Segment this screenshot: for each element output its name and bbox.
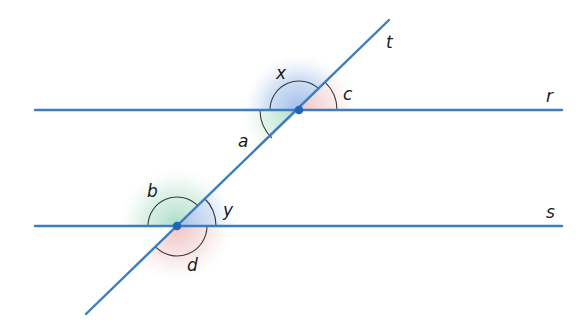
line-label-t: t bbox=[386, 32, 394, 52]
angle-label-d: d bbox=[187, 255, 198, 275]
angle-label-a: a bbox=[238, 131, 248, 151]
angle-label-y: y bbox=[222, 200, 234, 220]
intersection-point-r-t bbox=[295, 106, 304, 115]
angle-label-b: b bbox=[147, 181, 158, 201]
line-label-r: r bbox=[546, 86, 554, 106]
parallel-lines-transversal-diagram: r s t x c a b y d bbox=[0, 0, 588, 331]
angle-label-c: c bbox=[343, 84, 353, 104]
line-label-s: s bbox=[546, 202, 555, 222]
angle-label-x: x bbox=[275, 63, 287, 83]
intersection-point-s-t bbox=[173, 222, 182, 231]
line-t-transversal bbox=[86, 20, 389, 314]
